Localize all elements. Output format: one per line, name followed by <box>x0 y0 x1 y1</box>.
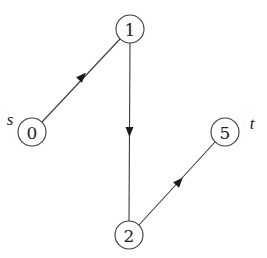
edge-0-to-1 <box>42 39 120 122</box>
arrowhead-icon <box>125 127 133 137</box>
node-2[interactable]: 2 <box>115 221 143 249</box>
arrowhead-icon <box>76 70 89 83</box>
edge-1-to-2 <box>125 43 133 221</box>
node-1[interactable]: 1 <box>116 15 144 43</box>
node-label: 1 <box>125 20 136 40</box>
node-label: 0 <box>27 123 38 143</box>
node-0[interactable]: 0 s <box>7 110 46 147</box>
edge-2-to-5 <box>139 142 215 225</box>
node-label: 5 <box>220 123 231 143</box>
source-label: s <box>7 110 14 129</box>
sink-label: t <box>250 114 256 133</box>
node-5[interactable]: 5 t <box>211 114 256 147</box>
node-label: 2 <box>124 226 135 246</box>
graph-diagram: 0 s 1 2 5 t <box>0 0 267 258</box>
